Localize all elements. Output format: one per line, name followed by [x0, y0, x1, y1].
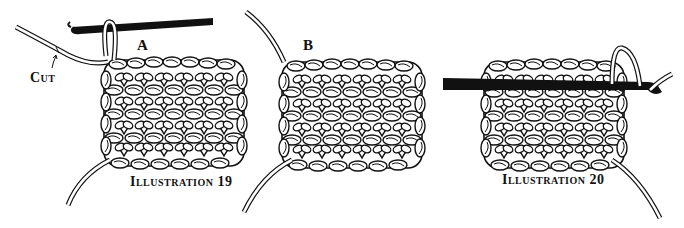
illustration-20-caption: Illustration 20 [502, 172, 605, 188]
cut-arrow-icon [52, 56, 56, 68]
panel-20-swatch [443, 48, 672, 218]
illustration-19-caption: Illustration 19 [130, 174, 233, 190]
panel-b-letter: B [303, 37, 313, 54]
illustration-canvas [0, 0, 684, 228]
panel-b-swatch [244, 12, 425, 212]
crochet-illustration-figure: A Cut Illustration 19 B Illustration 20 [0, 0, 684, 228]
panel-a-letter: A [137, 37, 148, 54]
crochet-hook-icon [68, 18, 213, 34]
cut-label: Cut [30, 70, 56, 86]
